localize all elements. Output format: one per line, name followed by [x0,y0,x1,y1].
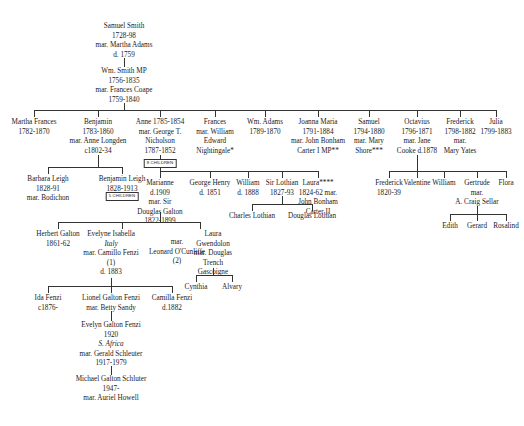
connector-gascoigne-bus [213,268,214,275]
drop-edith [450,214,451,221]
node-line: Gerard [467,222,487,232]
drop-alvary [232,275,233,282]
sibling-bus-galton [58,222,200,223]
node-line: 1820-39 [375,189,403,199]
node-line: Cynthia [185,283,208,293]
badge-5-children: 5 CHILDREN [106,192,139,201]
node-line: d. 1851 [190,189,231,199]
drop-sir-lothian [282,171,283,178]
node-line: Laura**** [298,179,338,189]
node-line: Frederick [444,118,477,128]
node-line: Rosalind [493,222,519,232]
node-line: Michael Galton Schluter [76,375,147,385]
node-line: 1861-62 [36,240,79,250]
connector-lothian-bus [282,196,283,204]
connector-octavius-bus [417,155,418,171]
family-tree-chart: Samuel Smith1728-98mar. Martha Adamsd. 1… [0,0,524,426]
node-frances-nightingale: Francesmar. WilliamEdwardNightingale* [196,118,234,156]
node-line: Gwendolon [194,240,232,250]
node-line: Italy [83,240,138,250]
node-line: Carter I MP** [291,147,345,157]
node-valentine: Valentine [403,179,430,189]
node-line: Lionel Galton Fenzi [82,294,140,304]
node-line: S. Africa [80,340,143,350]
node-line: Gertrude [455,179,498,189]
node-line: Evelyne Isabella [83,230,138,240]
node-line: Joanna Maria [291,118,345,128]
node-line: Samuel Smith [96,22,153,32]
node-line: d. 1888 [236,189,259,199]
node-line: Octavius [397,118,437,128]
node-line: mar. Bodichon [27,194,69,204]
node-line: 1789-1870 [247,128,283,138]
node-julia: Julia1799-1883 [480,118,511,137]
node-cynthia: Cynthia [185,283,208,293]
node-line: mar. Anne Longden [70,137,127,147]
node-line: 1920 [80,331,143,341]
drop-laura [318,171,319,178]
node-joanna-maria: Joanna Maria1791-1884mar. John BonhamCar… [291,118,345,156]
drop-benjamin-leigh [122,167,123,174]
node-charles-lothian: Charles Lothian [229,212,275,222]
connector-g1-g2 [124,58,125,67]
node-line: 1728-98 [96,32,153,42]
node-michael-galton-schluter: Michael Galton Schluter1947-mar. Auriel … [76,375,147,404]
node-line: mar. Frances Coape [96,86,153,96]
node-line: Barbara Leigh [27,175,69,185]
node-line: Charles Lothian [229,212,275,222]
node-william-octavius: William [432,179,455,189]
node-line: mar. Martha Adams [96,41,153,51]
node-line: Edward [196,137,234,147]
node-ida-fenzi: Ida Fenzic1876- [35,294,62,313]
node-frederick-smith: Frederick1798-1882mar.Mary Yates [444,118,477,156]
node-line: Frederick [375,179,403,189]
node-martha-frances: Martha Frances1782-1870 [12,118,57,137]
node-line: Anne 1785-1854 [136,118,185,128]
node-line: Wm. Adams [247,118,283,128]
node-line: Shore*** [353,147,384,157]
drop-martha-frances [34,110,35,117]
node-line: d.1882 [152,304,193,314]
node-gertrude-sellar: Gertrudemar.A. Craig Sellar [455,179,498,208]
node-line: d. 1883 [83,268,138,278]
node-line: Valentine [403,179,430,189]
node-barbara-leigh: Barbara Leigh1828-91mar. Bodichon [27,175,69,204]
node-line: 1796-1871 [397,128,437,138]
node-line: mar. Sir [137,198,182,208]
node-octavius: Octavius1796-1871mar. JaneCooke d.1878 [397,118,437,156]
drop-julia [496,110,497,117]
node-line: (1) [83,259,138,269]
node-line: mar. George T. [136,128,185,138]
node-line: 1798-1882 [444,128,477,138]
sibling-bus-benjamin [48,167,122,168]
drop-laura-gwendolon [200,222,201,229]
node-line: mar. Mary [353,137,384,147]
drop-wm-adams [265,110,266,117]
node-frederick-1820: Frederick1820-39 [375,179,403,198]
node-line: d.1909 [137,189,182,199]
node-anne-nicholson: Anne 1785-1854mar. George T.Nicholson178… [136,118,185,156]
node-evelyn-galton-fenzi: Evelyn Galton Fenzi1920S. Africamar. Ger… [80,321,143,369]
drop-frederick-1820 [389,171,390,178]
node-herbert-galton: Herbert Galton1861-62 [36,230,79,249]
drop-william-octavius [444,171,445,178]
sibling-bus-lothian [252,204,312,205]
node-line: Julia [480,118,511,128]
node-line: mar. Camillo Fenzi [83,249,138,259]
drop-william-nicholson [248,171,249,178]
node-william-nicholson: Williamd. 1888 [236,179,259,198]
drop-gerard [477,214,478,221]
node-line: Douglas Lothian [288,212,336,222]
node-line: Sir Lothian [266,179,299,189]
node-line: Camilla Fenzi [152,294,193,304]
drop-flora [506,171,507,178]
node-line: Herbert Galton [36,230,79,240]
drop-benjamin [98,110,99,117]
drop-cynthia [196,275,197,282]
drop-george-henry [210,171,211,178]
drop-samuel [369,110,370,117]
node-wm-adams: Wm. Adams1789-1870 [247,118,283,137]
node-line: Trench [194,259,232,269]
connector-g2-bus [124,103,125,110]
sibling-bus-octavius [389,171,506,172]
